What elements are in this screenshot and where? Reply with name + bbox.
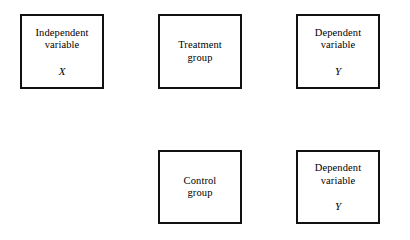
node-label: Dependent variable — [315, 27, 361, 52]
diagram-canvas: Independent variable X Treatment group D… — [0, 0, 410, 240]
node-treatment-group[interactable]: Treatment group — [158, 14, 242, 89]
node-independent-variable[interactable]: Independent variable X — [20, 14, 104, 89]
node-label: Treatment group — [178, 39, 222, 64]
node-control-group[interactable]: Control group — [158, 150, 242, 224]
node-label: Control group — [184, 175, 217, 200]
node-label: Dependent variable — [315, 162, 361, 187]
node-dependent-variable-treatment[interactable]: Dependent variable Y — [296, 14, 380, 89]
node-variable-symbol: Y — [335, 200, 341, 212]
node-variable-symbol: X — [59, 65, 66, 77]
node-dependent-variable-control[interactable]: Dependent variable Y — [296, 150, 380, 224]
node-variable-symbol: Y — [335, 65, 341, 77]
node-label: Independent variable — [36, 27, 89, 52]
